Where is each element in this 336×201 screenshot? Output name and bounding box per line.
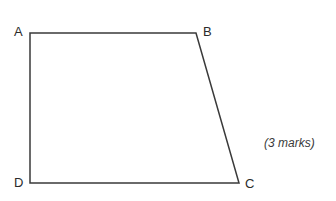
marks-annotation: (3 marks)	[264, 136, 315, 150]
geometry-figure: A B C D (3 marks)	[0, 0, 336, 201]
quadrilateral-shape	[0, 0, 336, 201]
vertex-label-b: B	[203, 25, 212, 38]
vertex-label-c: C	[245, 177, 255, 190]
vertex-label-d: D	[14, 176, 24, 189]
quadrilateral-outline	[30, 33, 239, 183]
vertex-label-a: A	[14, 25, 23, 38]
